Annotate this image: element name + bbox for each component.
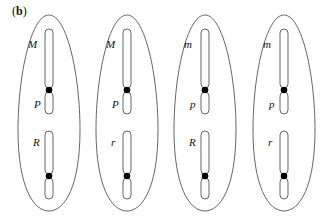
chromosome-3-bottom-upper-arm xyxy=(201,131,209,174)
allele-label-lower: R xyxy=(188,136,196,148)
chromosome-4-top-centromere-icon xyxy=(281,87,288,94)
chromosome-1-top-upper-arm xyxy=(45,29,53,88)
chromosome-4-bottom-centromere-icon xyxy=(281,173,288,180)
allele-label-middle: p xyxy=(268,98,275,110)
allele-label-lower: r xyxy=(111,136,116,148)
chromosome-1-top-centromere-icon xyxy=(46,87,53,94)
chromosome-4-top-upper-arm xyxy=(280,29,288,88)
chromosome-3-top-upper-arm xyxy=(201,29,209,88)
allele-label-middle: p xyxy=(189,98,196,110)
chromosome-2-bottom-lower-arm xyxy=(123,178,131,199)
chromosome-3-top-lower-arm xyxy=(201,92,209,114)
chromosome-4-top-lower-arm xyxy=(280,92,288,114)
chromosome-2-top-upper-arm xyxy=(123,29,131,88)
chromosome-2-top-lower-arm xyxy=(123,92,131,114)
chromosome-2-top-centromere-icon xyxy=(124,87,131,94)
allele-label-middle: P xyxy=(33,98,41,110)
chromosome-1-top-lower-arm xyxy=(45,92,53,114)
allele-label-upper: M xyxy=(105,38,116,50)
chromosome-3-bottom-centromere-icon xyxy=(202,173,209,180)
allele-label-upper: m xyxy=(184,38,192,50)
chromosome-2-bottom-centromere-icon xyxy=(124,173,131,180)
chromosome-1-bottom-centromere-icon xyxy=(46,173,53,180)
allele-label-upper: m xyxy=(263,38,271,50)
allele-label-lower: r xyxy=(268,136,273,148)
chromosome-1-bottom-lower-arm xyxy=(45,178,53,199)
allele-label-middle: P xyxy=(111,98,119,110)
chromosome-diagram: MPRMPrmpRmpr xyxy=(0,0,322,223)
chromosome-2-bottom-upper-arm xyxy=(123,131,131,174)
chromosome-4-bottom-lower-arm xyxy=(280,178,288,199)
chromosome-3-bottom-lower-arm xyxy=(201,178,209,199)
chromosome-3-top-centromere-icon xyxy=(202,87,209,94)
allele-label-lower: R xyxy=(32,136,40,148)
chromosome-4-bottom-upper-arm xyxy=(280,131,288,174)
allele-label-upper: M xyxy=(27,38,38,50)
chromosome-1-bottom-upper-arm xyxy=(45,131,53,174)
